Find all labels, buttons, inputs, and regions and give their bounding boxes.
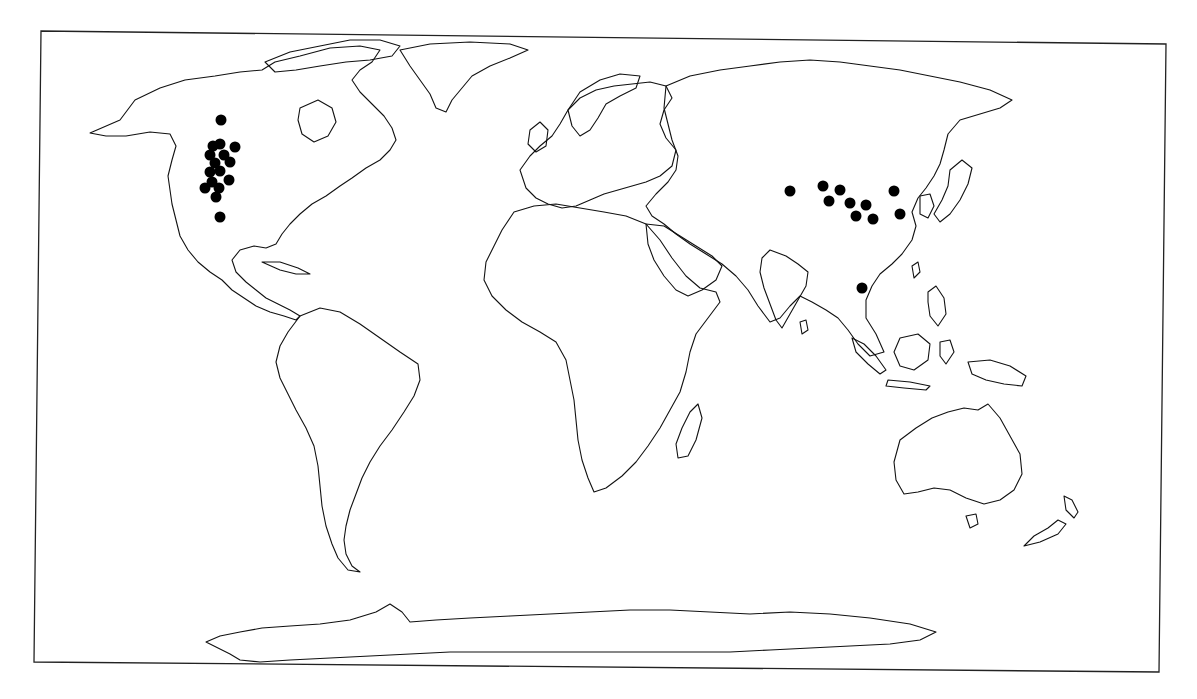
asia-outline (646, 60, 1012, 356)
map-marker[interactable] (889, 186, 900, 197)
new-zealand-outline (1024, 496, 1078, 546)
japan-outline (934, 160, 972, 222)
borneo-outline (894, 334, 930, 370)
map-marker[interactable] (785, 186, 796, 197)
hudson-bay-outline (298, 100, 336, 142)
india-outline (760, 250, 808, 328)
world-map (0, 0, 1197, 699)
korea-outline (920, 194, 934, 218)
java-outline (886, 380, 930, 390)
scandinavia-outline (568, 74, 640, 136)
madagascar-outline (676, 404, 702, 458)
greenland-outline (400, 42, 528, 112)
map-canvas (0, 0, 1197, 699)
map-marker[interactable] (215, 212, 226, 223)
antarctica-outline (206, 604, 936, 662)
map-marker[interactable] (205, 167, 216, 178)
north-america-outline (90, 46, 396, 320)
arctic-islands-outline (265, 40, 400, 72)
map-marker[interactable] (215, 139, 226, 150)
map-marker[interactable] (845, 198, 856, 209)
map-frame (34, 31, 1166, 672)
south-america-outline (276, 308, 420, 572)
map-marker[interactable] (224, 175, 235, 186)
taiwan-outline (912, 262, 920, 278)
sri-lanka-outline (800, 320, 808, 334)
caribbean-outline (262, 262, 310, 274)
map-marker[interactable] (818, 181, 829, 192)
north-america-points (200, 115, 241, 223)
map-marker[interactable] (895, 209, 906, 220)
map-marker[interactable] (200, 183, 211, 194)
map-marker[interactable] (215, 166, 226, 177)
new-guinea-outline (968, 360, 1026, 386)
tasmania-outline (966, 514, 978, 528)
map-marker[interactable] (824, 196, 835, 207)
map-marker[interactable] (211, 192, 222, 203)
map-marker[interactable] (835, 185, 846, 196)
map-marker[interactable] (216, 115, 227, 126)
europe-outline (520, 82, 676, 208)
map-marker[interactable] (230, 142, 241, 153)
arabian-peninsula-outline (646, 224, 722, 296)
asia-points (785, 181, 906, 294)
africa-outline (484, 204, 720, 492)
australia-outline (894, 404, 1022, 504)
map-marker[interactable] (225, 157, 236, 168)
philippines-outline (928, 286, 946, 326)
map-marker[interactable] (868, 214, 879, 225)
map-marker[interactable] (851, 211, 862, 222)
map-marker[interactable] (861, 200, 872, 211)
sulawesi-outline (940, 340, 954, 364)
map-marker[interactable] (857, 283, 868, 294)
